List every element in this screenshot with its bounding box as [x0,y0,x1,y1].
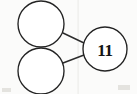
edge-bottom-left-to-labeled [63,55,84,63]
paper-speck-artifact [118,85,130,90]
graph-diagram-svg: 11 [0,0,137,94]
bottom-left-node[interactable] [18,48,64,94]
scan-line-artifact [78,0,79,94]
paper-speck-artifact [2,88,11,92]
top-left-node[interactable] [18,1,64,47]
labeled-node-label: 11 [97,41,112,60]
edge-top-left-to-labeled [63,33,84,43]
graph-diagram-canvas: 11 [0,0,137,94]
